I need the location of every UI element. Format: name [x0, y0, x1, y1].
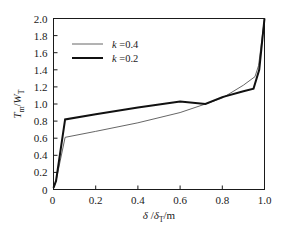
x-tick-label: 0.8 — [215, 194, 229, 206]
y-tick-label: 1.2 — [34, 81, 48, 93]
x-title-unit: /m — [164, 209, 176, 221]
x-tick-label: 1.0 — [258, 194, 272, 206]
y-tick-label: 1.4 — [34, 64, 48, 76]
y-tick-label: 1.0 — [34, 98, 48, 110]
x-tick-label: 0.4 — [131, 194, 145, 206]
y-tick-label: 1.8 — [34, 30, 48, 42]
y-tick-label: 0.8 — [34, 115, 48, 127]
y-tick-label: 0.4 — [34, 149, 48, 161]
x-tick-label: 0.6 — [173, 194, 187, 206]
x-tick-label: 0 — [50, 194, 56, 206]
legend-label-k02: k =0.2 — [112, 53, 138, 64]
legend-value-k04: =0.4 — [117, 39, 139, 50]
y-tick-label: 0.6 — [34, 132, 48, 144]
x-tick-label: 0.2 — [89, 194, 103, 206]
chart-figure: 00.20.40.60.81.0 00.20.40.60.81.01.21.41… — [0, 0, 286, 232]
line-chart: 00.20.40.60.81.0 00.20.40.60.81.01.21.41… — [0, 0, 286, 232]
y-title-sub-T: T — [17, 89, 26, 94]
y-axis-tick-labels: 00.20.40.60.81.01.21.41.61.82.0 — [34, 13, 48, 196]
legend-label-k04: k =0.4 — [112, 39, 139, 50]
y-tick-label: 2.0 — [34, 13, 48, 25]
y-tick-label: 1.6 — [34, 47, 48, 59]
legend-value-k02: =0.2 — [117, 53, 139, 64]
y-tick-label: 0.2 — [34, 166, 48, 178]
y-tick-label: 0 — [42, 184, 48, 196]
